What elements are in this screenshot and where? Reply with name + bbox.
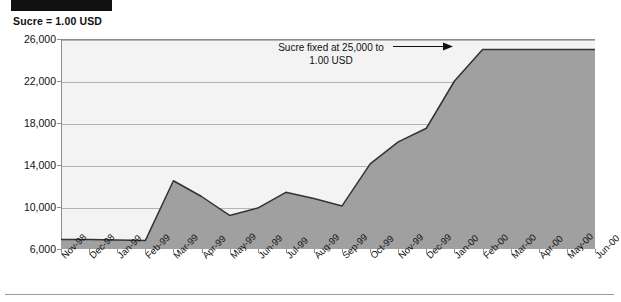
- annotation-arrow-icon: [393, 41, 453, 52]
- annotation-callout: Sucre fixed at 25,000 to 1.00 USD: [270, 42, 392, 67]
- y-axis-tickmark: [57, 165, 61, 166]
- y-axis-tickmark: [57, 81, 61, 82]
- y-axis-tickmark: [57, 39, 61, 40]
- bottom-divider: [5, 294, 614, 295]
- annotation-line-1: Sucre fixed at 25,000 to: [270, 42, 392, 55]
- y-axis-tickmark: [57, 207, 61, 208]
- y-axis-tickmark: [57, 249, 61, 250]
- area-fill: [61, 50, 595, 250]
- annotation-line-2: 1.00 USD: [270, 55, 392, 68]
- y-axis-tickmark: [57, 123, 61, 124]
